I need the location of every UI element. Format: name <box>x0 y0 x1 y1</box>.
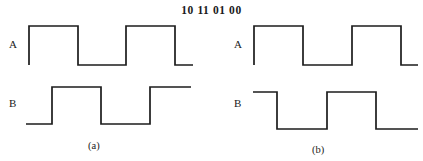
panel-b-signal-b-trace <box>253 92 418 129</box>
bit-sequence-header: 10 11 01 00 <box>0 4 423 16</box>
panel-a-signal-a-trace <box>29 26 193 65</box>
panel-a-caption: (a) <box>88 141 100 152</box>
panel-b-signal-a-label: A <box>234 39 242 50</box>
panel-b-signal-a-trace <box>254 26 418 65</box>
panel-b-caption: (b) <box>312 145 324 156</box>
panel-a-signal-b-label: B <box>9 98 16 109</box>
waveform-figure: 10 11 01 00 A B (a) A B (b) <box>0 0 423 161</box>
waveform-canvas <box>0 0 423 161</box>
panel-a-signal-a-label: A <box>9 39 17 50</box>
panel-a-signal-b-trace <box>26 87 191 124</box>
panel-b-signal-b-label: B <box>234 98 241 109</box>
